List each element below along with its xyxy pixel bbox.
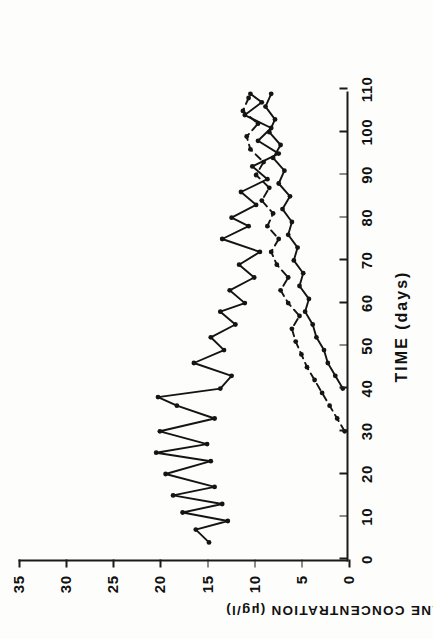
data-point-marker — [180, 510, 185, 515]
scanned-figure-page: 010203040506070809010011005101520253035 … — [0, 0, 433, 639]
y-tick-label: 25 — [104, 575, 121, 593]
data-point-marker — [276, 236, 281, 241]
x-tick-label: 110 — [357, 76, 374, 102]
data-point-marker — [170, 493, 175, 498]
data-point-marker — [191, 360, 196, 365]
series-ebct-3-75-min — [240, 95, 347, 433]
series-path — [156, 93, 279, 542]
y-tick — [301, 559, 303, 567]
y-tick-label: 30 — [57, 575, 74, 593]
x-tick — [339, 515, 347, 517]
series-path — [265, 93, 342, 388]
data-point-marker — [236, 262, 241, 267]
y-axis-title: DIBROMOCHLOROMETHANE CONCENTRATION (µg/l… — [190, 602, 433, 617]
x-tick — [339, 173, 347, 175]
data-point-marker — [238, 189, 243, 194]
y-tick — [348, 559, 350, 567]
data-point-marker — [174, 403, 179, 408]
y-tick-label: 20 — [151, 575, 168, 593]
data-point-marker — [249, 164, 254, 169]
x-tick-label: 50 — [357, 337, 374, 355]
data-point-marker — [304, 364, 309, 369]
y-tick — [159, 559, 161, 567]
x-tick — [339, 87, 347, 89]
data-point-marker — [208, 334, 213, 339]
x-tick — [339, 216, 347, 218]
data-point-marker — [153, 450, 158, 455]
data-point-marker — [229, 215, 234, 220]
x-tick-label: 70 — [357, 251, 374, 269]
data-point-marker — [217, 309, 222, 314]
figure-rotated-container: 010203040506070809010011005101520253035 … — [0, 0, 433, 639]
series-path — [242, 98, 344, 431]
data-point-marker — [327, 403, 332, 408]
data-point-marker — [248, 91, 253, 96]
x-tick — [339, 344, 347, 346]
chart-series-svg — [18, 89, 348, 559]
data-point-marker — [278, 287, 283, 292]
y-tick-label: 0 — [340, 575, 357, 584]
x-tick — [339, 387, 347, 389]
x-tick — [339, 429, 347, 431]
x-tick — [339, 258, 347, 260]
data-point-marker — [227, 287, 232, 292]
y-tick — [207, 559, 209, 567]
x-tick-label: 0 — [357, 555, 374, 564]
data-point-marker — [259, 198, 264, 203]
y-tick — [65, 559, 67, 567]
x-tick — [339, 557, 347, 559]
plot-frame: 010203040506070809010011005101520253035 — [18, 91, 348, 561]
data-point-marker — [155, 394, 160, 399]
x-tick — [339, 472, 347, 474]
series-ebct-7-5-min — [263, 91, 345, 391]
y-tick — [254, 559, 256, 567]
y-tick — [112, 559, 114, 567]
data-point-marker — [163, 471, 168, 476]
x-tick-label: 90 — [357, 166, 374, 184]
x-tick — [339, 301, 347, 303]
x-tick-label: 80 — [357, 208, 374, 226]
x-tick-label: 10 — [357, 507, 374, 525]
data-point-marker — [248, 146, 253, 151]
data-point-marker — [268, 91, 273, 96]
x-tick-label: 40 — [357, 379, 374, 397]
data-point-marker — [314, 334, 319, 339]
data-point-marker — [293, 339, 298, 344]
x-tick-label: 20 — [357, 465, 374, 483]
data-point-marker — [325, 360, 330, 365]
data-point-marker — [157, 428, 162, 433]
y-tick-label: 35 — [10, 575, 27, 593]
plot-area: 010203040506070809010011005101520253035 … — [0, 0, 433, 639]
y-tick-label: 10 — [245, 575, 262, 593]
x-tick-label: 100 — [357, 118, 374, 145]
data-point-marker — [219, 236, 224, 241]
data-point-marker — [193, 527, 198, 532]
x-tick — [339, 130, 347, 132]
data-point-marker — [299, 352, 304, 357]
caption-anchor: Figure 12. Breakthrough curves for dibro… — [398, 0, 433, 36]
x-axis-title: TIME (days) — [392, 91, 410, 561]
data-point-marker — [289, 326, 294, 331]
x-tick-label: 60 — [357, 294, 374, 312]
y-tick — [18, 559, 20, 567]
y-tick-label: 5 — [292, 575, 309, 584]
data-point-marker — [274, 262, 279, 267]
y-tick-label: 15 — [198, 575, 215, 593]
x-tick-label: 30 — [357, 422, 374, 440]
